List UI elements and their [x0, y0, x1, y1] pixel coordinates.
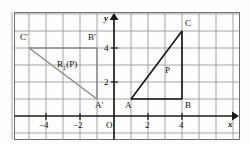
- x-tick-label-2: 2: [145, 121, 150, 130]
- coordinate-plane-figure: x y O −4 −2 2 4 2 4 A B C P A′ B′ C′ R1(…: [0, 0, 250, 144]
- y-tick-label-2: 2: [104, 78, 109, 87]
- vertex-label-c-prime: C′: [20, 33, 28, 42]
- vertex-label-b-prime: B′: [88, 33, 96, 42]
- y-axis-label: y: [104, 14, 108, 23]
- x-tick-label-minus2: −2: [73, 121, 83, 130]
- vertex-label-a: A: [125, 101, 132, 110]
- x-axis-label: x: [228, 120, 233, 129]
- x-tick-label-minus4: −4: [39, 121, 49, 130]
- vertex-label-a-prime: A′: [95, 101, 103, 110]
- image-interior-label-r1p: R1(P): [57, 60, 77, 71]
- vertex-label-c: C: [185, 19, 191, 28]
- vertex-label-b: B: [185, 101, 191, 110]
- x-axis-arrowhead: [232, 112, 239, 121]
- y-tick-label-4: 4: [104, 44, 109, 53]
- r1p-text: R1(P): [57, 59, 77, 69]
- object-interior-label-p: P: [165, 66, 170, 75]
- origin-label: O: [106, 121, 113, 130]
- figure-canvas: [0, 0, 250, 144]
- x-tick-label-4: 4: [179, 121, 184, 130]
